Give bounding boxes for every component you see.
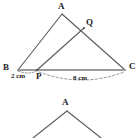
vertex-label-A-lower: A: [62, 98, 69, 107]
vertex-label-A-upper: A: [58, 2, 65, 11]
geometry-figure-canvas: A Q B C P A 2 cm 8 cm: [0, 0, 139, 138]
point-marker-Q: [83, 27, 85, 29]
segment-AC: [62, 14, 125, 70]
dimension-label-PC: 8 cm: [73, 75, 87, 82]
triangle-ABC-outline: [17, 14, 126, 70]
geometry-drawing: [0, 0, 139, 138]
segment-lower-left-leg: [33, 111, 67, 138]
triangle-partial-lower-outline: [33, 111, 101, 138]
segment-lower-right-leg: [67, 111, 101, 138]
vertex-label-P: P: [36, 72, 42, 81]
dimension-label-BP: 2 cm: [11, 73, 25, 80]
vertex-label-B: B: [3, 63, 9, 72]
segment-AB: [18, 14, 62, 70]
segment-PQ: [37, 28, 84, 70]
vertex-label-Q: Q: [86, 18, 93, 27]
vertex-label-C: C: [129, 62, 136, 71]
